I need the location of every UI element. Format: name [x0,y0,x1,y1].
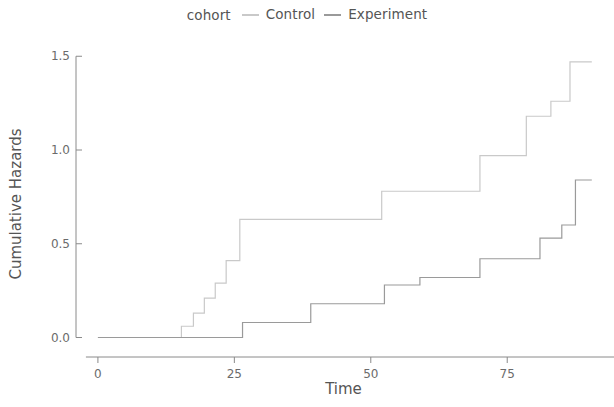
y-tick-label: 1.0 [0,143,70,157]
x-tick-label: 50 [363,367,378,381]
x-tick-label: 75 [500,367,515,381]
series-paths [98,62,592,338]
series-line-experiment [98,180,592,338]
plot-area [0,0,614,407]
axis-lines [76,56,614,357]
tick-marks [76,56,507,363]
y-tick-label: 0.0 [0,331,70,345]
cumulative-hazards-chart: cohort Control Experiment Cumulative Haz… [0,0,614,407]
x-tick-label: 25 [227,367,242,381]
y-tick-label: 0.5 [0,237,70,251]
series-line-control [98,62,592,338]
x-tick-label: 0 [94,367,102,381]
y-tick-label: 1.5 [0,49,70,63]
